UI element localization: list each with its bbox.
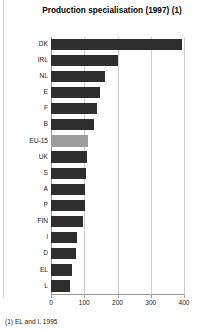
category-label: L — [44, 281, 48, 291]
category-label: S — [44, 168, 48, 178]
bar — [51, 232, 77, 243]
bar-row: FIN — [51, 214, 184, 230]
bar-row: UK — [51, 150, 184, 166]
bar-row: F — [51, 102, 184, 118]
bar — [51, 87, 100, 98]
bar-row: IRL — [51, 53, 184, 69]
bar-row: EU-15 — [51, 134, 184, 150]
bar — [51, 264, 72, 275]
category-label: P — [44, 200, 48, 210]
bar-row: NL — [51, 69, 184, 85]
bar — [51, 71, 105, 82]
x-axis-tick-labels: 0100200300400 — [51, 299, 184, 311]
bar — [51, 168, 86, 179]
bar — [51, 151, 87, 162]
x-axis-tick-label: 200 — [112, 299, 123, 306]
category-label: EU-15 — [29, 136, 48, 146]
bar — [51, 216, 83, 227]
bar-rows: DKIRLNLEFBEU-15UKSAPFINIDELL — [51, 37, 184, 295]
x-axis-tick — [84, 295, 85, 298]
bar-row: P — [51, 198, 184, 214]
gridline — [184, 37, 185, 295]
x-axis-tick — [184, 295, 185, 298]
category-label: IRL — [38, 55, 48, 65]
category-label: B — [44, 119, 48, 129]
bar-row: DK — [51, 37, 184, 53]
plot-area: DKIRLNLEFBEU-15UKSAPFINIDELL — [51, 37, 184, 295]
category-label: F — [44, 103, 48, 113]
category-label: DK — [39, 39, 48, 49]
bar-row: S — [51, 166, 184, 182]
left-edge-rule — [3, 0, 4, 298]
bar — [51, 184, 85, 195]
x-axis-tick — [51, 295, 52, 298]
category-label: D — [43, 248, 48, 258]
bar-row: I — [51, 231, 184, 247]
x-axis-tick-label: 400 — [178, 299, 189, 306]
x-axis-tick — [118, 295, 119, 298]
bar — [51, 55, 118, 66]
category-label: UK — [39, 152, 48, 162]
category-label: A — [44, 184, 48, 194]
x-axis-tick-label: 0 — [49, 299, 53, 306]
category-label: NL — [40, 71, 48, 81]
bar-row: B — [51, 118, 184, 134]
bar — [51, 119, 94, 130]
bar — [51, 200, 85, 211]
category-label: E — [44, 87, 48, 97]
bar-row: EL — [51, 263, 184, 279]
category-label: FIN — [37, 216, 48, 226]
bar — [51, 103, 97, 114]
bar — [51, 135, 88, 146]
category-label: EL — [40, 265, 48, 275]
bar — [51, 280, 70, 291]
category-label: I — [46, 232, 48, 242]
bar-row: A — [51, 182, 184, 198]
chart-footnote: (1) EL and I, 1995 — [5, 318, 58, 325]
bar-row: L — [51, 279, 184, 295]
bar — [51, 248, 76, 259]
x-axis-tick-label: 300 — [145, 299, 156, 306]
chart-title: Production specialisation (1997) (1) — [0, 6, 224, 15]
bar — [51, 39, 182, 50]
bar-row: E — [51, 85, 184, 101]
bar-row: D — [51, 247, 184, 263]
x-axis-tick-label: 100 — [79, 299, 90, 306]
x-axis-tick — [151, 295, 152, 298]
chart-figure: Production specialisation (1997) (1) DKI… — [0, 0, 224, 332]
